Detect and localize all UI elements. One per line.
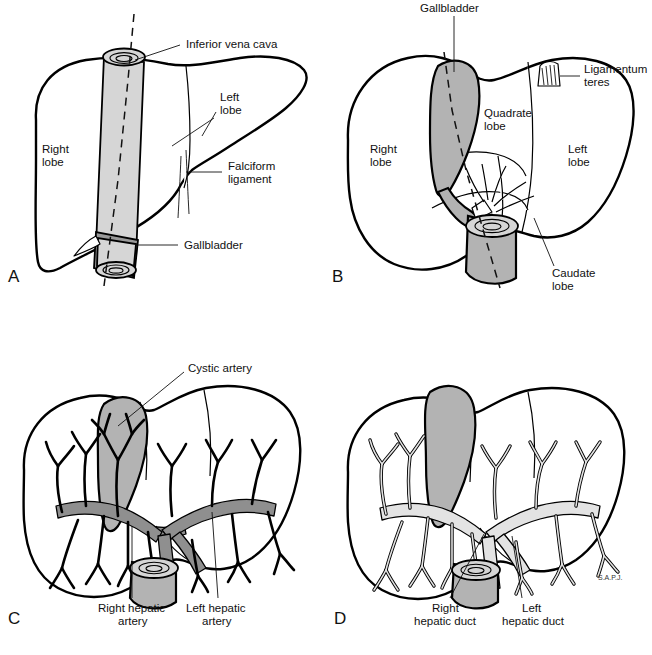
inferior-vena-cava-vessel (466, 215, 518, 284)
label-left-lobe-line2: lobe (220, 104, 242, 116)
label-quadrate-lobe-line2: lobe (484, 120, 506, 132)
label-quadrate-lobe-line1: Quadrate (484, 107, 532, 119)
label-right-lobe-line1: Right (42, 143, 70, 155)
label-right-lobe-line1: Right (370, 143, 398, 155)
panel-letter-d: D (334, 609, 346, 628)
label-ligamentum-teres-line2: teres (584, 76, 610, 88)
panel-b: Gallbladder Ligamentum teres Quadrate lo… (326, 0, 652, 330)
label-cystic-artery: Cystic artery (188, 362, 252, 374)
label-left-hepatic-artery-line2: artery (202, 615, 232, 627)
panel-letter-b: B (332, 267, 343, 286)
label-right-hepatic-artery-line2: artery (118, 615, 148, 627)
ligamentum-teres-shape (538, 62, 560, 86)
liver-anatomy-figure: Inferior vena cava Left lobe Falciform l… (0, 0, 652, 655)
common-bile-duct-stump (452, 560, 500, 608)
common-duct-stump (130, 558, 178, 608)
label-inferior-vena-cava: Inferior vena cava (186, 38, 278, 50)
inferior-vena-cava-vessel (96, 49, 145, 259)
label-left-lobe-line1: Left (220, 91, 240, 103)
panel-a: Inferior vena cava Left lobe Falciform l… (0, 0, 326, 330)
label-left-lobe-line1: Left (568, 143, 588, 155)
panel-d: Right hepatic duct Left hepatic duct S.A… (326, 330, 652, 655)
label-right-lobe-line2: lobe (42, 156, 64, 168)
panel-letter-a: A (8, 267, 20, 286)
label-caudate-lobe-line1: Caudate (552, 267, 595, 279)
label-left-lobe-line2: lobe (568, 156, 590, 168)
label-left-hepatic-duct-line1: Left (522, 602, 542, 614)
label-gallbladder: Gallbladder (184, 239, 243, 251)
artist-signature: S.A.P.J. (598, 574, 622, 581)
label-right-hepatic-artery-line1: Right hepatic (98, 602, 165, 614)
label-right-hepatic-duct-line1: Right (432, 602, 460, 614)
label-falciform-line2: ligament (228, 173, 272, 185)
panel-letter-c: C (8, 609, 20, 628)
label-right-lobe-line2: lobe (370, 156, 392, 168)
label-left-hepatic-artery-line1: Left hepatic (186, 602, 246, 614)
label-ligamentum-teres-line1: Ligamentum (584, 63, 647, 75)
label-gallbladder: Gallbladder (420, 2, 479, 14)
label-right-hepatic-duct-line2: hepatic duct (414, 615, 477, 627)
label-falciform-line1: Falciform (228, 160, 275, 172)
panel-c: Cystic artery Right hepatic artery Left … (0, 330, 326, 655)
label-left-hepatic-duct-line2: hepatic duct (502, 615, 565, 627)
label-caudate-lobe-line2: lobe (552, 280, 574, 292)
